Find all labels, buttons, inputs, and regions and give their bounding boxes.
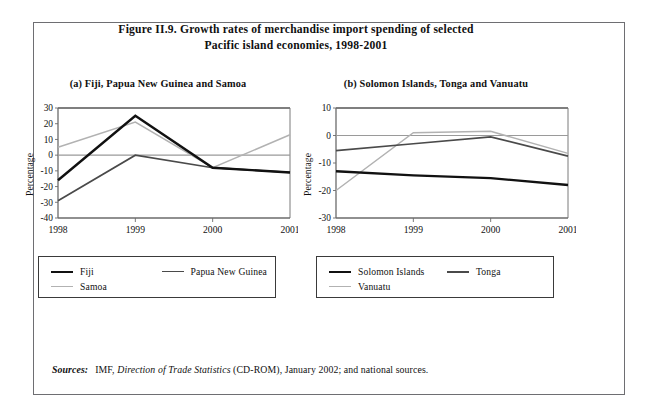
y-tick-label: 10 — [44, 135, 54, 145]
chart-panel-b: (b) Solomon Islands, Tonga and Vanuatu P… — [296, 78, 576, 308]
y-tick-label: -10 — [41, 166, 54, 176]
legend-swatch-icon — [162, 271, 184, 272]
y-tick-label: 20 — [44, 119, 54, 129]
legend-entry-tonga: Tonga — [447, 266, 501, 277]
panel-b-plot-area: 100-10-20-301998199920002001 — [296, 102, 576, 242]
sources-note: Sources:IMF, Direction of Trade Statisti… — [52, 364, 592, 375]
y-tick-label: -40 — [41, 213, 54, 223]
panel-a-plot-area: 3020100-10-20-30-401998199920002001 — [18, 102, 298, 242]
y-tick-label: 30 — [44, 103, 54, 113]
panel-a-caption: (a) Fiji, Papua New Guinea and Samoa — [18, 78, 298, 89]
x-tick-label: 2001 — [558, 224, 576, 235]
chart-panel-a: (a) Fiji, Papua New Guinea and Samoa Per… — [18, 78, 298, 308]
legend-row: Vanuatu — [329, 279, 545, 294]
legend-swatch-icon — [447, 271, 469, 273]
sources-publication-title: Direction of Trade Statistics — [117, 364, 230, 375]
x-tick-label: 2000 — [203, 224, 222, 235]
legend-label: Tonga — [476, 266, 501, 277]
sources-label: Sources: — [52, 364, 88, 375]
legend-swatch-icon — [51, 271, 73, 273]
y-tick-label: -30 — [319, 213, 332, 223]
panel-a-chart-svg: 3020100-10-20-30-401998199920002001 — [18, 102, 298, 242]
legend-row: FijiPapua New Guinea — [51, 264, 267, 279]
figure-title-line-2: Pacific island economies, 1998-2001 — [40, 38, 552, 54]
legend-entry-papua-new-guinea: Papua New Guinea — [162, 266, 267, 277]
legend-row: Samoa — [51, 279, 267, 294]
legend-label: Samoa — [80, 281, 107, 292]
panel-a-legend: FijiPapua New GuineaSamoa — [38, 256, 276, 298]
y-tick-label: -10 — [319, 158, 332, 168]
x-tick-label: 1998 — [48, 224, 67, 235]
legend-entry-vanuatu: Vanuatu — [329, 281, 447, 292]
y-tick-label: 0 — [48, 150, 53, 160]
legend-entry-fiji: Fiji — [51, 266, 162, 277]
sources-post: (CD-ROM), January 2002; and national sou… — [233, 364, 428, 375]
y-tick-label: -20 — [41, 182, 54, 192]
figure-title: Figure II.9. Growth rates of merchandise… — [40, 22, 552, 54]
legend-swatch-icon — [329, 271, 351, 273]
legend-label: Papua New Guinea — [191, 266, 267, 277]
legend-swatch-icon — [329, 286, 351, 287]
legend-label: Fiji — [80, 266, 94, 277]
series-line-fiji — [58, 116, 290, 180]
series-line-tonga — [336, 137, 568, 156]
legend-label: Vanuatu — [358, 281, 391, 292]
y-tick-label: -30 — [41, 198, 54, 208]
legend-row: Solomon IslandsTonga — [329, 264, 545, 279]
panel-b-legend: Solomon IslandsTongaVanuatu — [316, 256, 554, 298]
x-tick-label: 1999 — [404, 224, 423, 235]
legend-swatch-icon — [51, 286, 73, 287]
series-line-papua-new-guinea — [58, 155, 290, 201]
series-line-solomon-islands — [336, 171, 568, 185]
x-tick-label: 2000 — [481, 224, 500, 235]
legend-entry-samoa: Samoa — [51, 281, 169, 292]
panel-b-chart-svg: 100-10-20-301998199920002001 — [296, 102, 576, 242]
sources-pre: IMF, — [95, 364, 115, 375]
legend-label: Solomon Islands — [358, 266, 424, 277]
panel-b-caption: (b) Solomon Islands, Tonga and Vanuatu — [296, 78, 576, 89]
y-tick-label: 10 — [322, 103, 332, 113]
y-tick-label: 0 — [326, 131, 331, 141]
x-tick-label: 1999 — [126, 224, 145, 235]
figure-title-line-1: Figure II.9. Growth rates of merchandise… — [40, 22, 552, 38]
legend-entry-solomon-islands: Solomon Islands — [329, 266, 447, 277]
x-tick-label: 1998 — [326, 224, 345, 235]
y-tick-label: -20 — [319, 186, 332, 196]
